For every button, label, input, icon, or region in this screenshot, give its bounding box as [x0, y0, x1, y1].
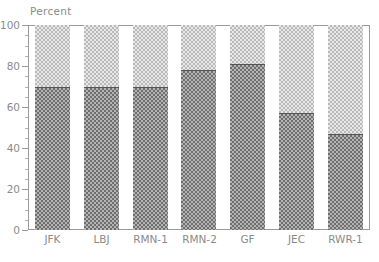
x-axis-tick-label: RMN-1	[126, 233, 175, 245]
x-axis-tick-label: GF	[223, 233, 272, 245]
y-axis-tick-label: 0	[13, 224, 20, 236]
bar-segment-lower[interactable]	[35, 87, 70, 231]
y-axis-tick-label: 60	[7, 101, 20, 113]
bar-group[interactable]	[279, 25, 314, 230]
bar-segment-lower[interactable]	[279, 113, 314, 230]
x-axis-tick-label: JEC	[272, 233, 321, 245]
bar-segment-lower[interactable]	[133, 87, 168, 231]
bar-segment-upper[interactable]	[133, 25, 168, 87]
y-axis: 020406080100	[0, 25, 28, 230]
bar-segment-upper[interactable]	[181, 25, 216, 70]
y-axis-tick-label: 20	[7, 183, 20, 195]
x-axis: JFKLBJRMN-1RMN-2GFJECRWR-1	[28, 233, 370, 253]
bar-segment-lower[interactable]	[230, 64, 265, 230]
bar-segment-upper[interactable]	[328, 25, 363, 134]
stacked-bar-chart: Percent 020406080100 JFKLBJRMN-1RMN-2GFJ…	[0, 0, 379, 262]
bar-group[interactable]	[35, 25, 70, 230]
bar-group[interactable]	[84, 25, 119, 230]
y-axis-major-tick	[22, 230, 28, 231]
x-axis-tick-label: LBJ	[77, 233, 126, 245]
bar-segment-lower[interactable]	[181, 70, 216, 230]
bar-segment-upper[interactable]	[35, 25, 70, 87]
bar-group[interactable]	[230, 25, 265, 230]
bar-group[interactable]	[328, 25, 363, 230]
y-axis-tick-label: 100	[0, 19, 20, 31]
bars-layer	[28, 25, 370, 230]
x-axis-tick-label: JFK	[28, 233, 77, 245]
bar-segment-upper[interactable]	[279, 25, 314, 113]
y-axis-tick-label: 80	[7, 60, 20, 72]
bar-group[interactable]	[181, 25, 216, 230]
bar-group[interactable]	[133, 25, 168, 230]
bar-segment-lower[interactable]	[84, 87, 119, 231]
bar-segment-upper[interactable]	[84, 25, 119, 87]
bar-segment-upper[interactable]	[230, 25, 265, 64]
x-axis-tick-label: RMN-2	[175, 233, 224, 245]
y-axis-title: Percent	[30, 5, 72, 17]
y-axis-tick-label: 40	[7, 142, 20, 154]
bar-segment-lower[interactable]	[328, 134, 363, 230]
x-axis-tick-label: RWR-1	[321, 233, 370, 245]
